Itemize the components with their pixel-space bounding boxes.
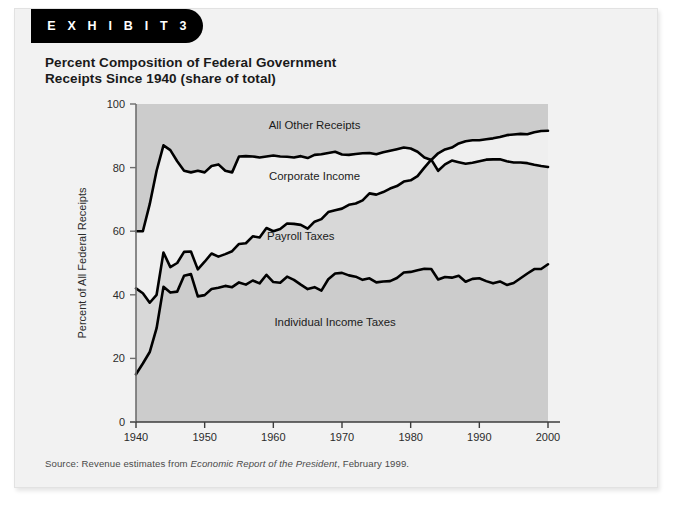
source-publication: Economic Report of the President	[190, 458, 337, 469]
source-note: Source: Revenue estimates from Economic …	[45, 458, 645, 469]
source-prefix: Source: Revenue estimates from	[45, 458, 190, 469]
exhibit-tab-label: E X H I B I T 3	[43, 19, 191, 33]
exhibit-card: E X H I B I T 3 Percent Composition of F…	[14, 8, 658, 488]
page-title: Percent Composition of Federal Governmen…	[45, 55, 605, 86]
exhibit-tab: E X H I B I T 3	[31, 9, 203, 43]
source-suffix: , February 1999.	[337, 458, 409, 469]
